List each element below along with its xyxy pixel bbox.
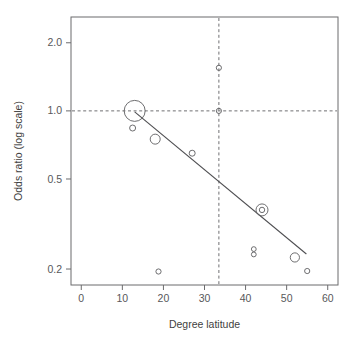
x-axis-tick-label: 60 [322, 292, 334, 304]
scatter-plot-figure: 0102030405060 0.20.51.02.0 Degree latitu… [0, 0, 360, 344]
y-axis-tick-label: 1.0 [47, 104, 62, 116]
x-axis-tick-label: 0 [78, 292, 84, 304]
x-axis-title: Degree latitude [169, 318, 240, 330]
x-axis-tick-label: 10 [117, 292, 129, 304]
y-axis-tick-label: 0.5 [47, 173, 62, 185]
x-axis-tick-label: 50 [281, 292, 293, 304]
chart-canvas: 0102030405060 0.20.51.02.0 Degree latitu… [0, 0, 360, 344]
x-axis-tick-label: 20 [158, 292, 170, 304]
y-axis-tick-label: 2.0 [47, 36, 62, 48]
x-axis-tick-label: 40 [240, 292, 252, 304]
x-axis-tick-label: 30 [199, 292, 211, 304]
y-axis-title: Odds ratio (log scale) [12, 101, 24, 201]
y-axis-tick-label: 0.2 [47, 263, 62, 275]
